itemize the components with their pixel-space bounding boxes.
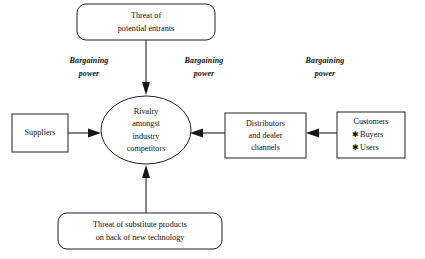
rivalry-line-2: amongst <box>132 119 160 128</box>
node-distributors-and-dealer-channels[interactable]: Distributors and dealer channels <box>225 113 306 158</box>
node-threat-of-substitute-products[interactable]: Threat of substitute products on back of… <box>58 213 222 249</box>
force-label-left-line-1: Bargaining <box>69 56 109 65</box>
force-label-right: Bargaining power <box>305 56 345 78</box>
threat-entrants-line-1: Threat of <box>131 11 162 20</box>
connector-distributors-to-rivalry <box>190 129 225 138</box>
force-label-right-line-2: power <box>314 69 336 78</box>
customers-bullet-label-1: Buyers <box>360 130 383 139</box>
threat-substitutes-box[interactable] <box>58 213 222 249</box>
force-label-middle-line-2: power <box>193 69 215 78</box>
force-label-right-line-1: Bargaining <box>305 56 345 65</box>
force-label-left: Bargaining power <box>69 56 109 78</box>
threat-entrants-line-2: potential entrants <box>118 24 175 33</box>
rivalry-line-4: competitors <box>127 144 166 153</box>
force-label-middle-line-1: Bargaining <box>184 56 224 65</box>
rivalry-line-3: industry <box>133 132 161 141</box>
customers-bullet-glyph-2: ✱ <box>352 143 359 152</box>
node-threat-of-potential-entrants[interactable]: Threat of potential entrants <box>77 4 215 40</box>
connector-suppliers-to-rivalry <box>68 129 101 138</box>
node-customers[interactable]: Customers ✱ Buyers ✱ Users <box>337 112 405 158</box>
force-label-left-line-2: power <box>78 69 100 78</box>
suppliers-label: Suppliers <box>25 128 56 137</box>
force-label-middle: Bargaining power <box>184 56 224 78</box>
distributors-line-3: channels <box>251 143 280 152</box>
rivalry-line-1: Rivalry <box>134 107 159 116</box>
customers-bullet-users: ✱ Users <box>352 143 379 152</box>
threat-substitutes-line-1: Threat of substitute products <box>93 220 187 229</box>
distributors-line-2: and dealer <box>249 131 283 140</box>
node-rivalry-amongst-industry-competitors[interactable]: Rivalry amongst industry competitors <box>101 96 191 164</box>
connector-customers-to-distributors <box>306 129 337 138</box>
threat-substitutes-line-2: on back of new technology <box>96 233 186 242</box>
customers-bullet-label-2: Users <box>360 143 379 152</box>
distributors-line-1: Distributors <box>246 119 285 128</box>
connector-substitutes-to-rivalry <box>142 165 150 213</box>
five-forces-diagram: Threat of potential entrants Bargaining … <box>0 0 425 259</box>
connector-entrants-to-rivalry <box>142 40 150 95</box>
customers-title: Customers <box>353 117 388 126</box>
customers-bullet-glyph-1: ✱ <box>352 130 359 139</box>
threat-entrants-box[interactable] <box>77 4 215 40</box>
customers-bullet-buyers: ✱ Buyers <box>352 130 383 139</box>
node-suppliers[interactable]: Suppliers <box>12 114 68 152</box>
diagram-canvas: Threat of potential entrants Bargaining … <box>0 0 425 259</box>
